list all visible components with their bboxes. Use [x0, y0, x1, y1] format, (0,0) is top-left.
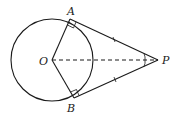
label-o: O [39, 55, 48, 68]
geometry-figure: A B O P [0, 0, 179, 119]
radius-oa [52, 19, 70, 60]
label-b: B [66, 102, 75, 115]
label-p: P [161, 54, 170, 67]
tangent-pb [74, 60, 158, 98]
label-a: A [66, 5, 75, 18]
